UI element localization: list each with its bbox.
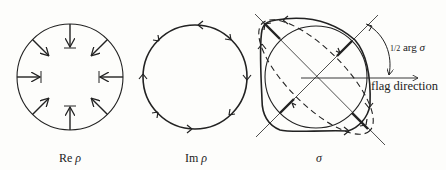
rho-symbol: ρ	[75, 151, 81, 165]
caption-re-rho: Re ρ	[59, 151, 81, 166]
half-fraction: 1/2	[390, 44, 400, 53]
sigma-symbol: σ	[420, 41, 425, 53]
half-arg-sigma-label: 1/2 arg σ	[390, 41, 425, 53]
flag-direction-label: flag direction	[371, 79, 438, 94]
caption-text: Im	[185, 151, 201, 165]
sigma-symbol: σ	[316, 151, 322, 165]
caption-im-rho: Im ρ	[185, 151, 207, 166]
im-rho-figure	[139, 21, 251, 133]
sigma-figure	[242, 3, 418, 150]
rho-symbol: ρ	[201, 151, 207, 165]
caption-sigma: σ	[316, 151, 322, 166]
re-rho-figure	[17, 24, 123, 130]
arg-text: arg	[400, 41, 419, 53]
caption-text: Re	[59, 151, 75, 165]
